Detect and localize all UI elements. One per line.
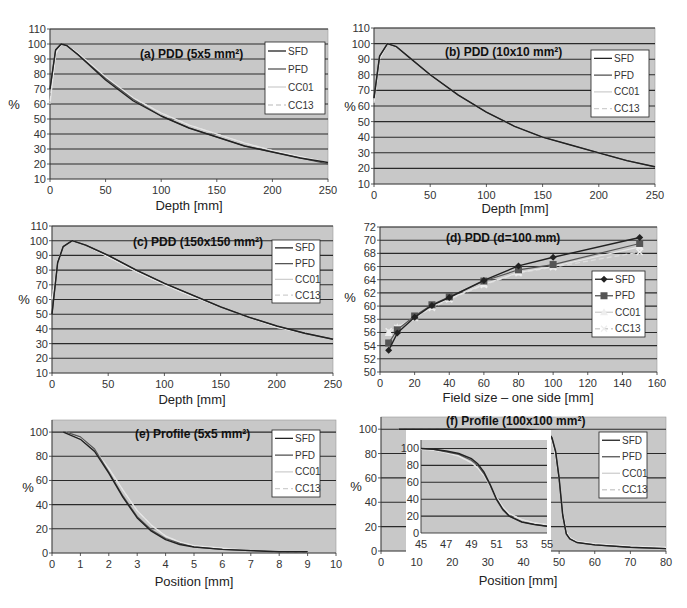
y-tick-label: 60 [358, 100, 370, 112]
y-tick-label: 70 [364, 234, 376, 246]
x-tick-label: 70 [624, 556, 636, 568]
y-tick-label: 40 [34, 128, 46, 140]
x-tick-label: 20 [409, 377, 421, 389]
x-tick-label: 0 [378, 556, 384, 568]
y-tick-label: 70 [34, 83, 46, 95]
y-tick-label: 50 [34, 113, 46, 125]
legend-label: CC13 [295, 290, 321, 301]
legend-label: PFD [622, 451, 642, 462]
inset-x-tick-label: 45 [415, 538, 427, 550]
legend-label: CC13 [288, 100, 314, 111]
chart-c-legend: SFDPFDCC01CC13 [272, 240, 321, 303]
legend-label: CC01 [615, 307, 641, 318]
x-tick-label: 100 [155, 378, 173, 390]
legend-label: PFD [295, 258, 315, 269]
x-tick-label: 50 [424, 189, 436, 201]
inset-y-tick-label: 20 [407, 510, 419, 522]
chart-f-profile-100x100: 0204060801000102030405060708002040608010… [350, 414, 672, 588]
y-tick-label: 90 [36, 249, 48, 261]
inset-x-tick-label: 49 [465, 538, 477, 550]
x-tick-label: 4 [163, 558, 169, 570]
chart-a-ylabel: % [8, 97, 20, 112]
y-tick-label: 30 [36, 338, 48, 350]
legend-label: CC01 [288, 82, 314, 93]
y-tick-label: 64 [364, 274, 376, 286]
y-tick-label: 20 [365, 521, 377, 533]
y-tick-label: 100 [28, 38, 46, 50]
legend-label: PFD [615, 290, 635, 301]
chart-f-xlabel: Position [mm] [479, 573, 558, 588]
inset-x-tick-label: 53 [516, 538, 528, 550]
y-tick-label: 100 [359, 423, 377, 435]
y-tick-label: 40 [36, 499, 48, 511]
chart-c-ylabel: % [18, 292, 30, 307]
legend-label: CC01 [295, 466, 321, 477]
chart-b-xlabel: Depth [mm] [481, 201, 548, 216]
x-tick-label: 250 [324, 378, 342, 390]
legend-label: CC01 [614, 86, 640, 97]
x-tick-label: 2 [106, 558, 112, 570]
legend-label: PFD [288, 64, 308, 75]
inset-x-tick-label: 51 [490, 538, 502, 550]
chart-c-xlabel: Depth [mm] [158, 392, 225, 407]
y-tick-label: 10 [34, 173, 46, 185]
x-tick-label: 80 [512, 377, 524, 389]
y-tick-label: 40 [358, 131, 370, 143]
legend-label: CC13 [614, 103, 640, 114]
y-tick-label: 62 [364, 287, 376, 299]
x-tick-label: 0 [377, 377, 383, 389]
chart-b-legend: SFDPFDCC01CC13 [591, 50, 649, 117]
inset-y-tick-label: 60 [407, 476, 419, 488]
y-tick-label: 20 [36, 352, 48, 364]
chart-f-inset: 020406080100454749515355 [401, 430, 553, 557]
x-tick-label: 250 [319, 184, 337, 196]
y-tick-label: 56 [364, 326, 376, 338]
chart-e-ylabel: % [22, 480, 34, 495]
inset-y-tick-label: 80 [407, 459, 419, 471]
legend-label: SFD [295, 433, 315, 444]
y-tick-label: 80 [365, 448, 377, 460]
x-tick-label: 0 [49, 378, 55, 390]
chart-d-xlabel: Field size – one side [mm] [442, 390, 593, 405]
x-tick-label: 30 [482, 556, 494, 568]
x-tick-label: 250 [646, 189, 664, 201]
inset-y-tick-label: 40 [407, 493, 419, 505]
x-tick-label: 150 [533, 189, 551, 201]
chart-f-ylabel: % [350, 479, 362, 494]
y-tick-label: 60 [36, 474, 48, 486]
chart-a-pdd-5x5: 102030405060708090100110050100150200250S… [8, 23, 337, 213]
chart-e-xlabel: Position [mm] [155, 574, 234, 589]
x-tick-label: 120 [579, 377, 597, 389]
y-tick-label: 30 [358, 147, 370, 159]
y-tick-label: 70 [358, 84, 370, 96]
y-tick-label: 100 [30, 426, 48, 438]
x-tick-label: 0 [47, 184, 53, 196]
x-tick-label: 160 [648, 377, 666, 389]
y-tick-label: 10 [358, 178, 370, 190]
chart-d-pdd-d100: 5052545658606264666870720204060801001201… [344, 221, 666, 405]
chart-d-plot: 5052545658606264666870720204060801001201… [364, 221, 666, 389]
chart-e-profile-5x5: 020406080100012345678910SFDPFDCC01CC13 (… [22, 420, 342, 589]
x-tick-label: 10 [330, 558, 342, 570]
x-tick-label: 50 [102, 378, 114, 390]
inset-y-tick-label: 100 [401, 442, 419, 454]
y-tick-label: 80 [36, 264, 48, 276]
legend-label: CC01 [622, 468, 648, 479]
y-tick-label: 90 [358, 53, 370, 65]
x-tick-label: 80 [660, 556, 672, 568]
x-tick-label: 100 [477, 189, 495, 201]
legend-label: CC13 [622, 484, 648, 495]
x-tick-label: 100 [152, 184, 170, 196]
y-tick-label: 40 [365, 496, 377, 508]
x-tick-label: 7 [248, 558, 254, 570]
y-tick-label: 66 [364, 261, 376, 273]
x-tick-label: 200 [263, 184, 281, 196]
x-tick-label: 100 [544, 377, 562, 389]
y-tick-label: 110 [30, 220, 48, 232]
legend-label: PFD [614, 70, 634, 81]
chart-a-title: (a) PDD (5x5 mm²) [140, 47, 243, 61]
legend-label: SFD [288, 46, 308, 57]
y-tick-label: 60 [365, 472, 377, 484]
figure-canvas: 102030405060708090100110050100150200250S… [0, 0, 687, 608]
legend-label: SFD [615, 274, 635, 285]
